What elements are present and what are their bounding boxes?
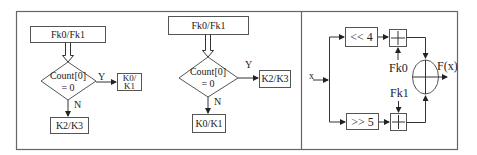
adder-top-to-xor-arrow xyxy=(407,38,426,59)
no-box-b-label: K0/K1 xyxy=(195,118,222,129)
decision-diamond-b xyxy=(179,57,238,97)
decision-b-line2: = 0 xyxy=(201,78,214,89)
adder-bottom-to-xor-arrow xyxy=(407,96,426,123)
no-box-a-label: K2/K3 xyxy=(56,120,83,131)
no-label-a: N xyxy=(74,99,81,110)
function-diagram: x << 4 Fk0 F(x) >> 5 Fk1 xyxy=(309,28,458,131)
output-label: F(x) xyxy=(437,59,458,73)
input-x-label: x xyxy=(309,70,314,81)
fk-box-a-label: Fk0/Fk1 xyxy=(51,29,85,40)
decision-a-line1: Count[0] xyxy=(50,70,86,81)
shift-right-label: >> 5 xyxy=(351,115,374,129)
yes-label-b: Y xyxy=(245,59,252,70)
yes-box-b-label: K2/K3 xyxy=(261,73,288,84)
key1-label: Fk1 xyxy=(390,86,409,100)
fk-box-b-label: Fk0/Fk1 xyxy=(192,20,226,31)
hollow-arrow-icon xyxy=(203,35,214,58)
diagram-canvas: Fk0/Fk1 Count[0] = 0 Y K0/ K1 N K2/K3 Fk… xyxy=(0,0,477,155)
decision-a-line2: = 0 xyxy=(61,82,74,93)
no-label-b: N xyxy=(214,96,221,107)
flowchart-a: Fk0/Fk1 Count[0] = 0 Y K0/ K1 N K2/K3 xyxy=(31,27,142,134)
decision-diamond-a xyxy=(41,62,96,100)
yes-label-a: Y xyxy=(98,71,105,82)
key0-label: Fk0 xyxy=(389,61,408,75)
shift-left-label: << 4 xyxy=(350,30,373,44)
flowchart-b: Fk0/Fk1 Count[0] = 0 Y K2/K3 N K0/K1 xyxy=(169,17,291,133)
yes-box-a-line2: K1 xyxy=(124,81,135,91)
decision-b-line1: Count[0] xyxy=(190,66,226,77)
hollow-arrow-icon xyxy=(63,43,74,63)
